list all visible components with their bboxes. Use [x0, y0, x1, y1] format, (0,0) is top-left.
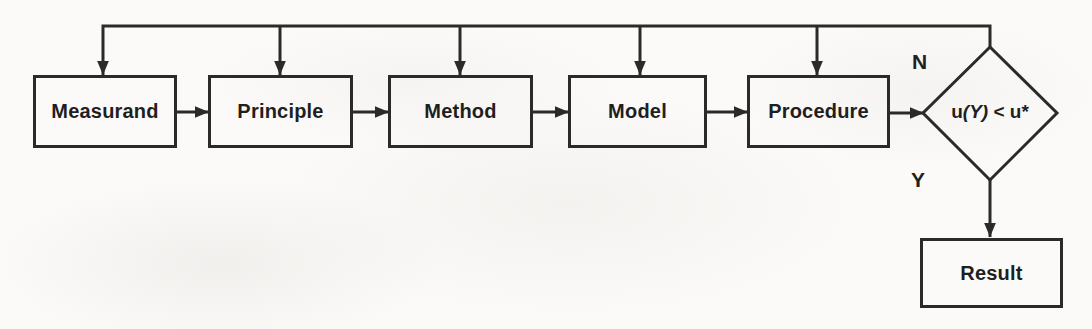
branch-label-yes: Y: [911, 168, 925, 192]
decision-label: u(Y) < u*: [923, 101, 1057, 123]
flow-box-principle: Principle: [208, 75, 353, 148]
flow-box-model: Model: [568, 75, 707, 148]
flow-box-result: Result: [920, 238, 1063, 308]
decision-label-prefix: u: [951, 101, 963, 122]
box-label-procedure: Procedure: [768, 100, 869, 123]
flow-box-procedure: Procedure: [747, 75, 890, 148]
box-label-model: Model: [608, 100, 667, 123]
box-label-result: Result: [960, 262, 1022, 285]
box-label-principle: Principle: [237, 100, 323, 123]
box-label-method: Method: [424, 100, 496, 123]
box-label-measurand: Measurand: [51, 100, 158, 123]
feedback-line: [103, 26, 990, 75]
branch-label-no: N: [912, 50, 927, 74]
decision-label-suffix: < u*: [988, 101, 1029, 122]
flowchart-diagram: Measurand Principle Method Model Procedu…: [0, 0, 1092, 329]
decision-label-italic: (Y): [963, 101, 988, 122]
flow-box-measurand: Measurand: [33, 75, 177, 148]
flow-box-method: Method: [388, 75, 533, 148]
